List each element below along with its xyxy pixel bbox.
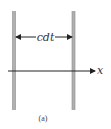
figure-caption: (a) — [39, 114, 48, 123]
diagram-canvas: cdt x (a) — [0, 0, 111, 129]
distance-label: cdt — [37, 31, 55, 44]
distance-arrow: cdt — [16, 31, 72, 44]
x-axis: x — [8, 64, 104, 77]
left-plate — [13, 11, 16, 110]
right-plate — [72, 11, 75, 110]
x-axis-label: x — [97, 64, 104, 77]
